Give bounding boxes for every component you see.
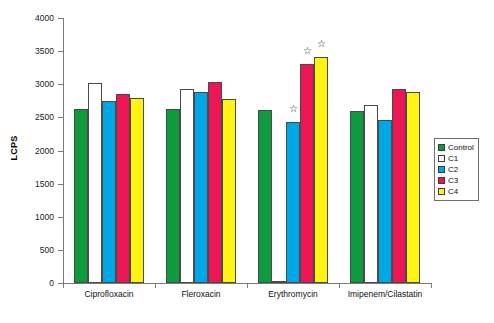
bar bbox=[130, 98, 144, 284]
x-axis-tick bbox=[339, 283, 340, 288]
bar bbox=[272, 281, 286, 283]
legend-color-swatch bbox=[438, 155, 445, 162]
x-axis-tick bbox=[155, 283, 156, 288]
bar bbox=[88, 83, 102, 283]
legend-item-label: C3 bbox=[448, 177, 458, 185]
legend-item-label: C1 bbox=[448, 155, 458, 163]
legend-item: C3 bbox=[438, 175, 474, 186]
bar bbox=[116, 94, 130, 283]
x-axis-tick bbox=[431, 283, 432, 288]
x-axis-tick bbox=[247, 283, 248, 288]
y-axis-tick-label: 1000 bbox=[8, 213, 54, 222]
x-axis-category-label: Imipenem/Cilastatin bbox=[339, 290, 431, 299]
x-axis-category-label: Fleroxacin bbox=[155, 290, 247, 299]
bar bbox=[166, 109, 180, 283]
bar-group bbox=[350, 18, 420, 283]
bar bbox=[350, 111, 364, 283]
bar-chart-figure: LCPS 05001000150020002500300035004000 Ci… bbox=[0, 0, 494, 323]
y-axis-tick-label: 2500 bbox=[8, 113, 54, 122]
y-axis-tick-label: 500 bbox=[8, 246, 54, 255]
significance-star-marker: ☆ bbox=[286, 104, 300, 114]
bar bbox=[314, 57, 328, 283]
x-axis-category-label: Ciprofloxacin bbox=[63, 290, 155, 299]
bar bbox=[74, 109, 88, 283]
bar bbox=[102, 101, 116, 283]
legend-item: C1 bbox=[438, 153, 474, 164]
bar-group bbox=[74, 18, 144, 283]
legend-item-label: Control bbox=[448, 144, 474, 152]
y-axis-tick-label: 3000 bbox=[8, 80, 54, 89]
bar bbox=[180, 89, 194, 283]
bar bbox=[300, 64, 314, 283]
bar bbox=[258, 110, 272, 283]
legend-color-swatch bbox=[438, 188, 445, 195]
bar bbox=[208, 82, 222, 283]
y-axis-tick-label: 3500 bbox=[8, 47, 54, 56]
legend-item-label: C4 bbox=[448, 188, 458, 196]
significance-star-marker: ☆ bbox=[314, 39, 328, 49]
legend-item-label: C2 bbox=[448, 166, 458, 174]
legend-item: C4 bbox=[438, 186, 474, 197]
legend-color-swatch bbox=[438, 166, 445, 173]
legend-item: C2 bbox=[438, 164, 474, 175]
bar bbox=[406, 92, 420, 283]
chart-legend: ControlC1C2C3C4 bbox=[434, 138, 479, 201]
y-axis-tick-label: 0 bbox=[8, 279, 54, 288]
x-axis-category-label: Erythromycin bbox=[247, 290, 339, 299]
bar bbox=[222, 99, 236, 283]
legend-color-swatch bbox=[438, 177, 445, 184]
legend-color-swatch bbox=[438, 144, 445, 151]
bar bbox=[364, 105, 378, 283]
plot-area: ☆☆☆ bbox=[63, 18, 431, 283]
bar-group bbox=[166, 18, 236, 283]
bar bbox=[392, 89, 406, 283]
y-axis-tick-label: 4000 bbox=[8, 14, 54, 23]
significance-star-marker: ☆ bbox=[300, 46, 314, 56]
bar bbox=[378, 120, 392, 283]
y-axis-tick-label: 1500 bbox=[8, 180, 54, 189]
bar-group: ☆☆☆ bbox=[258, 18, 328, 283]
x-axis-tick bbox=[63, 283, 64, 288]
bar bbox=[194, 92, 208, 283]
y-axis-tick-label: 2000 bbox=[8, 147, 54, 156]
legend-item: Control bbox=[438, 142, 474, 153]
bar bbox=[286, 122, 300, 283]
